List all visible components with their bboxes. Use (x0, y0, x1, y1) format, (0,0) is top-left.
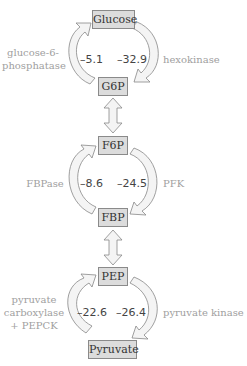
curved-arrow-left-3 (68, 274, 96, 333)
metabolite-pyruvate: Pyruvate (88, 340, 137, 359)
metabolite-f6p: F6P (98, 136, 128, 155)
metabolite-g6p: G6P (98, 77, 128, 96)
delta-g-fbpase: –8.6 (80, 177, 103, 190)
curved-arrow-right-1 (132, 22, 158, 82)
enzyme-pyruvate-carboxylase-pepck: pyruvate carboxylase + PEPCK (2, 293, 66, 332)
enzyme-pfk: PFK (163, 177, 184, 190)
enzyme-glucose-6-phosphatase: glucose-6- phosphatase (2, 46, 64, 72)
enzyme-line: FBPase (25, 177, 65, 190)
delta-g-pyruvate-kinase: –26.4 (116, 306, 146, 319)
enzyme-line: + PEPCK (2, 319, 66, 332)
enzyme-line: pyruvate (2, 293, 66, 306)
delta-g-pyruvate-carboxylase: –22.6 (77, 306, 107, 319)
enzyme-line: carboxylase (2, 306, 66, 319)
enzyme-hexokinase: hexokinase (163, 53, 220, 66)
delta-g-pfk: –24.5 (117, 177, 147, 190)
metabolite-fbp: FBP (98, 208, 128, 227)
enzyme-pyruvate-kinase: pyruvate kinase (163, 306, 244, 319)
double-arrow-1 (104, 98, 122, 133)
double-arrow-2 (104, 230, 122, 265)
metabolite-glucose: Glucose (92, 10, 135, 29)
delta-g-glucose-6-phosphatase: –5.1 (80, 53, 103, 66)
enzyme-line: glucose-6- (2, 46, 64, 59)
pathway-diagram: Glucose G6P F6P FBP PEP Pyruvate glucose… (0, 0, 247, 366)
delta-g-hexokinase: –32.9 (117, 53, 147, 66)
enzyme-line: phosphatase (2, 59, 64, 72)
metabolite-pep: PEP (98, 267, 128, 286)
enzyme-fbpase: FBPase (25, 177, 65, 190)
